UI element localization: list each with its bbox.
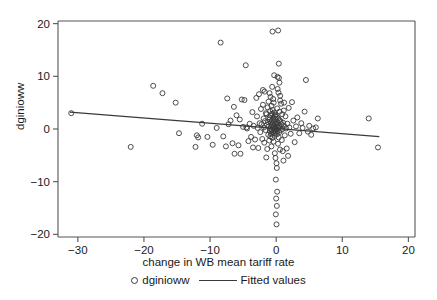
scatter-point (279, 138, 284, 143)
scatter-point (176, 131, 181, 136)
scatter-point (251, 145, 256, 150)
open-circle-marker-icon (131, 277, 138, 284)
y-tick-label: 0 (44, 123, 50, 135)
y-axis-ticks: −20−1001020 (30, 18, 58, 241)
scatter-point (243, 63, 248, 68)
scatter-point (297, 131, 302, 136)
y-tick-label: −10 (30, 176, 50, 188)
scatter-point (223, 144, 228, 149)
scatter-point (274, 161, 279, 166)
scatter-point (315, 116, 320, 121)
scatter-point (230, 141, 235, 146)
scatter-point (300, 125, 305, 130)
scatter-point (366, 116, 371, 121)
x-tick-label: −10 (200, 244, 220, 256)
scatter-point (286, 105, 291, 110)
scatter-point (218, 40, 223, 45)
x-tick-label: −20 (134, 244, 154, 256)
scatter-points-layer (69, 28, 381, 227)
legend-entry-scatter: dginioww (131, 274, 189, 286)
scatter-point (281, 158, 286, 163)
scatter-point (232, 151, 237, 156)
scatter-point (282, 133, 287, 138)
scatter-point (214, 125, 219, 130)
scatter-point (256, 92, 261, 97)
x-tick-label: 20 (402, 244, 415, 256)
scatter-point (260, 102, 265, 107)
scatter-point (225, 96, 230, 101)
scatter-point (375, 145, 380, 150)
scatter-point (160, 91, 165, 96)
scatter-point (277, 80, 282, 85)
scatter-point (295, 115, 300, 120)
fitted-regression-line (70, 112, 379, 137)
scatter-point (273, 177, 278, 182)
scatter-point (275, 189, 280, 194)
scatter-point (270, 84, 275, 89)
scatter-point (294, 124, 299, 129)
scatter-point (250, 110, 255, 115)
x-tick-label: 10 (336, 244, 349, 256)
scatter-point (282, 100, 287, 105)
scatter-point (258, 130, 263, 135)
scatter-point (69, 111, 74, 116)
scatter-point (274, 203, 279, 208)
scatter-point (279, 101, 284, 106)
scatter-point (269, 144, 274, 149)
chart-legend: dginioww Fitted values (0, 274, 437, 286)
scatter-point (221, 134, 226, 139)
x-tick-label: 0 (273, 244, 279, 256)
scatter-point (276, 61, 281, 66)
y-tick-label: 20 (37, 18, 50, 30)
scatter-point (299, 121, 304, 126)
scatter-point (309, 132, 314, 137)
scatter-plot-figure: −20−1001020 −30−20−1001020 dginioww chan… (0, 0, 437, 300)
scatter-point (256, 145, 261, 150)
legend-label-fitted: Fitted values (241, 274, 306, 286)
scatter-point (210, 142, 215, 147)
x-axis-title: change in WB mean tariff rate (0, 256, 437, 268)
scatter-point (273, 155, 278, 160)
y-tick-label: −20 (30, 228, 50, 240)
fitted-line-layer (70, 112, 379, 137)
scatter-point (253, 137, 258, 142)
scatter-point (205, 134, 210, 139)
legend-entry-fitted-line: Fitted values (199, 274, 306, 286)
scatter-point (274, 196, 279, 201)
plot-canvas: −20−1001020 −30−20−1001020 (0, 0, 437, 300)
scatter-point (284, 146, 289, 151)
scatter-point (173, 100, 178, 105)
scatter-point (274, 222, 279, 227)
scatter-point (273, 212, 278, 217)
scatter-point (303, 78, 308, 83)
scatter-point (254, 114, 259, 119)
scatter-point (302, 109, 307, 114)
scatter-point (290, 100, 295, 105)
line-marker-icon (199, 280, 237, 281)
scatter-point (274, 165, 279, 170)
scatter-point (286, 153, 291, 158)
scatter-point (231, 104, 236, 109)
scatter-point (264, 155, 269, 160)
scatter-point (288, 131, 293, 136)
scatter-point (151, 83, 156, 88)
scatter-point (193, 144, 198, 149)
x-tick-label: −30 (68, 244, 88, 256)
scatter-point (237, 117, 242, 122)
plot-frame (58, 21, 415, 237)
scatter-point (236, 143, 241, 148)
scatter-point (272, 151, 277, 156)
scatter-point (292, 140, 297, 145)
scatter-point (238, 151, 243, 156)
scatter-point (270, 29, 275, 34)
y-axis-title: dginioww (14, 0, 26, 130)
y-tick-label: 10 (37, 70, 50, 82)
legend-label-scatter: dginioww (142, 274, 189, 286)
scatter-point (128, 144, 133, 149)
scatter-point (276, 28, 281, 33)
x-axis-ticks: −30−20−1001020 (68, 237, 415, 256)
